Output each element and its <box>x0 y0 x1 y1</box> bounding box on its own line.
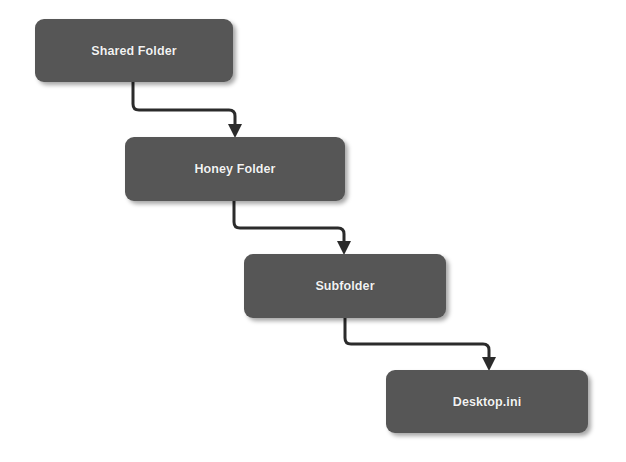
node-desktop-ini: Desktop.ini <box>386 370 588 433</box>
connector-shared-to-honey <box>133 82 242 138</box>
node-label: Shared Folder <box>91 44 176 58</box>
node-subfolder: Subfolder <box>244 254 446 318</box>
arrowhead-icon <box>228 124 242 138</box>
arrowhead-icon <box>482 357 496 371</box>
node-label: Honey Folder <box>194 162 275 176</box>
node-label: Desktop.ini <box>453 395 521 409</box>
node-label: Subfolder <box>315 279 374 293</box>
node-honey-folder: Honey Folder <box>125 137 345 201</box>
node-shared-folder: Shared Folder <box>35 19 233 82</box>
arrowhead-icon <box>337 241 351 255</box>
connector-subfolder-to-desktop <box>345 318 496 371</box>
connector-honey-to-subfolder <box>234 201 351 255</box>
diagram-canvas: Shared Folder Honey Folder Subfolder Des… <box>0 0 626 462</box>
